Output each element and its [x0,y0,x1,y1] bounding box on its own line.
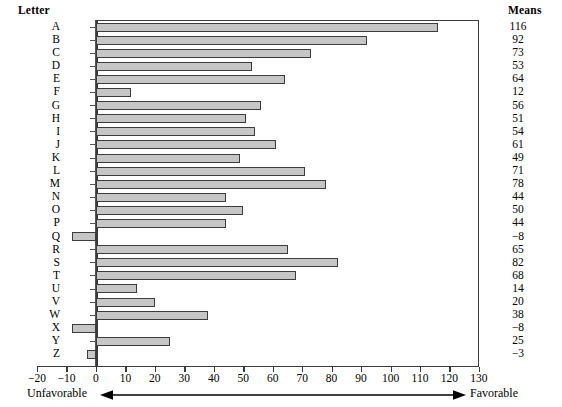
bar-row [96,296,478,309]
mean-value: −3 [496,347,540,360]
bar-row [96,139,478,152]
bar [87,350,96,359]
direction-annotation: Unfavorable Favorable [0,386,562,406]
bar [96,75,285,84]
value-tick-label: 130 [459,372,499,384]
mean-value: −8 [496,230,540,243]
bar-row [96,309,478,322]
mean-value: 54 [496,125,540,138]
bar [96,298,155,307]
means-value-column: 116927353641256515461497178445044−865826… [496,20,552,360]
mean-value: 44 [496,216,540,229]
mean-value: −8 [496,321,540,334]
letter-label: K [0,151,60,164]
bar [96,167,305,176]
bars-layer [96,21,478,366]
letter-label: A [0,20,60,33]
letter-label-column: ABCDEFGHIJKLMNOPQRSTUVWXYZ [0,20,74,360]
letter-label: I [0,125,60,138]
bar-chart: Letter Means ABCDEFGHIJKLMNOPQRSTUVWXYZ … [0,0,562,407]
unfavorable-label: Unfavorable [27,386,87,401]
mean-value: 78 [496,177,540,190]
bar-row [96,204,478,217]
bar-row [96,100,478,113]
letter-label: N [0,190,60,203]
bar [72,232,96,241]
mean-value: 44 [496,190,540,203]
mean-value: 14 [496,282,540,295]
bar [96,101,261,110]
bar [96,36,367,45]
mean-value: 50 [496,203,540,216]
bar-row [96,178,478,191]
bar [96,88,131,97]
mean-value: 82 [496,256,540,269]
letter-label: G [0,99,60,112]
bar-row [96,126,478,139]
bar-row [96,47,478,60]
bar [72,324,96,333]
mean-value: 71 [496,164,540,177]
bar-row [96,257,478,270]
value-axis-line [37,366,479,367]
bar-row [96,113,478,126]
letter-label: C [0,46,60,59]
bar-row [96,152,478,165]
bar-row [96,34,478,47]
mean-value: 53 [496,59,540,72]
mean-value: 49 [496,151,540,164]
bar [96,49,311,58]
letter-label: R [0,243,60,256]
bar [96,23,438,32]
letter-label: X [0,321,60,334]
value-axis: −20−100102030405060708090100110120130 [37,366,479,368]
bar [96,127,255,136]
bar [96,140,276,149]
means-column-header: Means [508,4,542,16]
bar-row [96,165,478,178]
mean-value: 116 [496,20,540,33]
bar [96,258,338,267]
letter-label: J [0,138,60,151]
mean-value: 68 [496,269,540,282]
bar [96,154,240,163]
mean-value: 65 [496,243,540,256]
letter-label: F [0,85,60,98]
bar [96,245,288,254]
bar-row [96,283,478,296]
mean-value: 73 [496,46,540,59]
letter-label: S [0,256,60,269]
bar-row [96,322,478,335]
mean-value: 56 [496,99,540,112]
bar-row [96,348,478,361]
bar [96,284,137,293]
bar [96,219,226,228]
mean-value: 25 [496,334,540,347]
bar-row [96,231,478,244]
favorable-label: Favorable [470,386,518,401]
letter-label: M [0,177,60,190]
mean-value: 64 [496,72,540,85]
plot-area [96,20,479,366]
bar-row [96,244,478,257]
letter-label: P [0,216,60,229]
mean-value: 92 [496,33,540,46]
bar-row [96,60,478,73]
bar [96,271,296,280]
letter-label: O [0,203,60,216]
bar-row [96,270,478,283]
letter-label: E [0,72,60,85]
bar-row [96,191,478,204]
bar-row [96,21,478,34]
letter-label: Z [0,347,60,360]
mean-value: 12 [496,85,540,98]
letter-column-header: Letter [18,4,50,16]
bar-row [96,73,478,86]
letter-label: W [0,308,60,321]
bar [96,193,226,202]
double-headed-arrow-icon [100,388,466,402]
letter-label: U [0,282,60,295]
bar-row [96,86,478,99]
category-axis [74,20,96,366]
bar [96,114,246,123]
